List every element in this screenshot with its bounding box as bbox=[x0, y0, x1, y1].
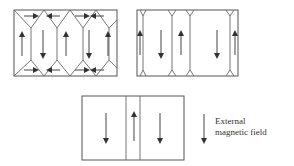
panel-2 bbox=[137, 10, 238, 76]
domain-diagram bbox=[0, 0, 294, 166]
panel-1 bbox=[14, 10, 117, 76]
panel-3 bbox=[82, 96, 184, 160]
legend-label: External magnetic field bbox=[215, 116, 267, 138]
legend-line-2: magnetic field bbox=[215, 127, 267, 138]
legend-line-1: External bbox=[215, 116, 267, 127]
